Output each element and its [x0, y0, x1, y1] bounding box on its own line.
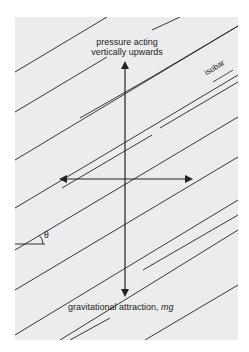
- theta-label: θ: [44, 230, 49, 240]
- pressure-label: pressure acting vertically upwards: [85, 37, 169, 57]
- gravity-label: gravitational attraction, mg: [68, 302, 174, 312]
